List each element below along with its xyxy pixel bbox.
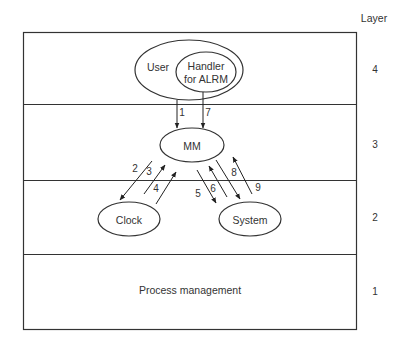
mm-label: MM <box>183 141 201 152</box>
layer-number-3: 3 <box>372 140 378 150</box>
layer-number-2: 2 <box>372 213 378 223</box>
handler-label-line1: Handler <box>188 61 225 72</box>
layer-number-1: 1 <box>372 287 378 297</box>
user-label: User <box>147 62 169 73</box>
clock-label: Clock <box>116 215 142 226</box>
arrow-label-8: 8 <box>231 168 237 178</box>
arrow-8 <box>216 160 240 199</box>
arrow-label-9: 9 <box>255 183 261 193</box>
arrow-label-2: 2 <box>132 164 138 174</box>
handler-label-line2: for ALRM <box>184 74 228 85</box>
arrow-label-1: 1 <box>179 108 185 118</box>
arrow-label-5: 5 <box>195 189 201 199</box>
arrow-label-3: 3 <box>146 167 152 177</box>
system-label: System <box>232 215 267 226</box>
layer-number-4: 4 <box>372 65 378 75</box>
arrow-label-7: 7 <box>205 108 211 118</box>
process-management-label: Process management <box>139 285 241 296</box>
layer-heading: Layer <box>361 13 387 24</box>
arrow-label-4: 4 <box>153 184 159 194</box>
arrow-label-6: 6 <box>210 184 216 194</box>
